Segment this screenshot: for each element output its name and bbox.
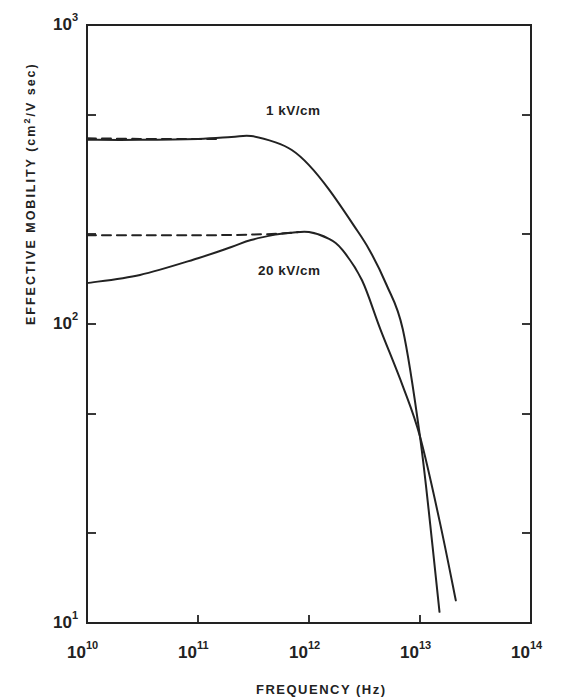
axis-ticks bbox=[87, 115, 531, 623]
curve-1-kv-cm bbox=[87, 136, 440, 612]
x-axis-title: FREQUENCY (Hz) bbox=[256, 682, 387, 697]
curve-1-kv-cm-dashed bbox=[87, 138, 218, 139]
x-tick-label: 1012 bbox=[289, 641, 320, 663]
y-tick-label: 102 bbox=[53, 312, 78, 334]
x-tick-label: 1010 bbox=[67, 641, 98, 663]
y-tick-label: 101 bbox=[53, 611, 78, 633]
curve-20-kv-cm bbox=[87, 232, 456, 601]
series-label-20kv: 20 kV/cm bbox=[258, 263, 321, 278]
x-tick-label: 1011 bbox=[178, 641, 209, 663]
y-tick-label: 103 bbox=[53, 13, 78, 35]
y-axis-title-text: EFFECTIVE MOBILITY (cm bbox=[24, 124, 38, 325]
y-axis-title: EFFECTIVE MOBILITY (cm2/V sec) bbox=[22, 62, 38, 325]
y-axis-title-superscript: 2 bbox=[22, 117, 32, 124]
curve-20-kv-cm-dashed bbox=[87, 232, 298, 235]
x-tick-label: 1014 bbox=[511, 641, 542, 663]
x-tick-label: 1013 bbox=[400, 641, 431, 663]
data-curves bbox=[87, 136, 456, 612]
y-axis-title-unit: /V sec) bbox=[24, 62, 38, 116]
series-label-1kv: 1 kV/cm bbox=[266, 103, 321, 118]
